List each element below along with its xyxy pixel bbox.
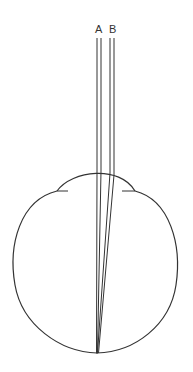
eye-globe-outline (13, 191, 177, 353)
label-a: A (95, 23, 103, 35)
cornea-bulge (57, 173, 135, 191)
eye-ray-diagram: A B (0, 0, 193, 372)
focal-point (96, 352, 98, 354)
label-b: B (109, 23, 116, 35)
ray-pair-B (98, 38, 115, 353)
